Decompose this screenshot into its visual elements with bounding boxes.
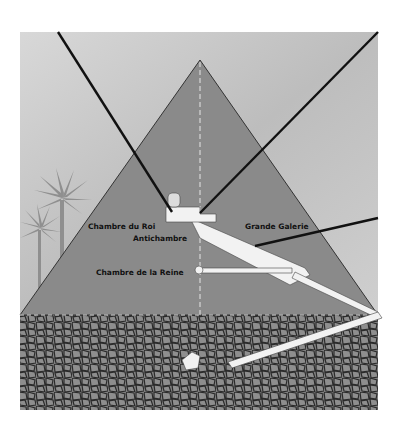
label-kings-chamber: Chambre du Roi (88, 222, 155, 231)
pyramid-diagram: Chambre du Roi Antichambre Grande Galeri… (0, 0, 397, 421)
queens-chamber (195, 266, 203, 274)
queens-passage (200, 268, 292, 273)
label-queens-chamber: Chambre de la Reine (96, 268, 184, 277)
relieving-chambers (168, 193, 180, 207)
label-antechamber: Antichambre (133, 234, 187, 243)
label-grand-gallery: Grande Galerie (245, 222, 309, 231)
